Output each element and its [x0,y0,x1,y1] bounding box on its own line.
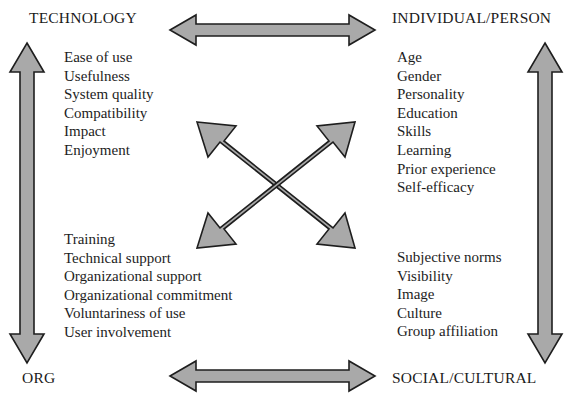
factor-list-organizational: TrainingTechnical supportOrganizational … [64,230,232,342]
factor-item: Technical support [64,249,232,268]
factor-item: Culture [397,304,502,323]
factor-list-social: Subjective normsVisibilityImageCultureGr… [397,248,502,341]
quadrant-label-individual: INDIVIDUAL/PERSON [392,9,551,27]
factor-item: System quality [64,85,154,104]
right-vertical-double-arrow [528,43,562,363]
factor-item: User involvement [64,323,232,342]
bottom-horizontal-double-arrow [170,361,375,391]
factor-item: Image [397,285,502,304]
factor-list-technology: Ease of useUsefulnessSystem qualityCompa… [64,48,154,160]
factor-item: Self-efficacy [397,178,496,197]
factor-item: Learning [397,141,496,160]
diagram-canvas: TECHNOLOGY INDIVIDUAL/PERSON ORG SOCIAL/… [0,0,574,403]
factor-item: Compatibility [64,104,154,123]
factor-item: Gender [397,67,496,86]
factor-item: Visibility [397,267,502,286]
factor-item: Training [64,230,232,249]
quadrant-label-organizational: ORG [22,369,55,387]
factor-item: Skills [397,122,496,141]
factor-item: Voluntariness of use [64,304,232,323]
quadrant-label-technology: TECHNOLOGY [29,9,137,27]
factor-item: Usefulness [64,67,154,86]
factor-item: Subjective norms [397,248,502,267]
factor-item: Ease of use [64,48,154,67]
factor-item: Education [397,104,496,123]
factor-item: Impact [64,122,154,141]
factor-item: Organizational support [64,267,232,286]
factor-item: Group affiliation [397,322,502,341]
left-vertical-double-arrow [10,43,44,363]
quadrant-label-social: SOCIAL/CULTURAL [392,369,537,387]
top-horizontal-double-arrow [170,15,375,45]
factor-list-individual: AgeGenderPersonalityEducationSkillsLearn… [397,48,496,197]
factor-item: Enjoyment [64,141,154,160]
factor-item: Prior experience [397,160,496,179]
factor-item: Age [397,48,496,67]
factor-item: Personality [397,85,496,104]
factor-item: Organizational commitment [64,286,232,305]
